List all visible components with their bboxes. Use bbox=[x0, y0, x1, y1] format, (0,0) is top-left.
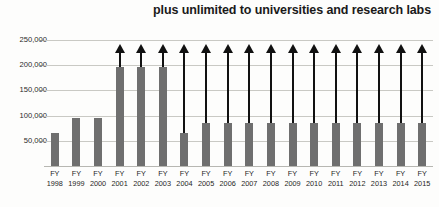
bar bbox=[267, 123, 275, 166]
arrow-shaft bbox=[183, 52, 185, 134]
bar bbox=[397, 123, 405, 166]
bar-group bbox=[395, 40, 407, 166]
arrow-shaft bbox=[205, 52, 207, 124]
arrow-head bbox=[244, 44, 254, 53]
y-axis-tick-mark bbox=[40, 116, 44, 117]
bar bbox=[375, 123, 383, 166]
y-axis-tick-mark bbox=[40, 65, 44, 66]
bar bbox=[116, 67, 124, 166]
arrow-shaft bbox=[119, 52, 121, 67]
arrow-head bbox=[374, 44, 384, 53]
arrow-shaft bbox=[400, 52, 402, 124]
bar-group bbox=[49, 40, 61, 166]
bar bbox=[159, 67, 167, 166]
bar-group bbox=[222, 40, 234, 166]
arrow-head bbox=[201, 44, 211, 53]
plot-area bbox=[44, 40, 433, 166]
arrow-shaft bbox=[378, 52, 380, 124]
bar-group bbox=[92, 40, 104, 166]
y-axis-tick-mark bbox=[40, 40, 44, 41]
bar bbox=[202, 123, 210, 166]
unlimited-arrow-icon bbox=[226, 44, 230, 124]
bar-group bbox=[135, 40, 147, 166]
arrow-shaft bbox=[421, 52, 423, 124]
bar-group bbox=[373, 40, 385, 166]
bar bbox=[418, 123, 426, 166]
bar bbox=[224, 123, 232, 166]
unlimited-arrow-icon bbox=[291, 44, 295, 124]
arrow-shaft bbox=[140, 52, 142, 67]
arrow-shaft bbox=[356, 52, 358, 124]
bar-group bbox=[70, 40, 82, 166]
bar-group bbox=[308, 40, 320, 166]
bar bbox=[332, 123, 340, 166]
arrow-head bbox=[266, 44, 276, 53]
bar bbox=[180, 133, 188, 166]
unlimited-arrow-icon bbox=[118, 44, 122, 67]
unlimited-arrow-icon bbox=[247, 44, 251, 124]
x-axis: FY1998FY1999FY2000FY2001FY2002FY2003FY20… bbox=[44, 169, 433, 199]
bar-group bbox=[157, 40, 169, 166]
unlimited-arrow-icon bbox=[377, 44, 381, 124]
bar-group bbox=[416, 40, 428, 166]
bar bbox=[94, 118, 102, 166]
arrow-shaft bbox=[162, 52, 164, 67]
unlimited-arrow-icon bbox=[355, 44, 359, 124]
y-axis-tick-mark bbox=[40, 141, 44, 142]
unlimited-arrow-icon bbox=[161, 44, 165, 67]
arrow-head bbox=[352, 44, 362, 53]
unlimited-arrow-icon bbox=[312, 44, 316, 124]
unlimited-arrow-icon bbox=[182, 44, 186, 134]
arrow-shaft bbox=[248, 52, 250, 124]
arrow-shaft bbox=[335, 52, 337, 124]
arrow-shaft bbox=[292, 52, 294, 124]
arrow-shaft bbox=[270, 52, 272, 124]
arrow-head bbox=[396, 44, 406, 53]
y-axis-tick-mark bbox=[40, 90, 44, 91]
x-axis-tick-label: FY2015 bbox=[409, 169, 435, 188]
arrow-head bbox=[115, 44, 125, 53]
bar-group bbox=[330, 40, 342, 166]
chart-figure: plus unlimited to universities and resea… bbox=[0, 0, 439, 207]
x-axis-tick-year: 2015 bbox=[409, 179, 435, 189]
arrow-head bbox=[223, 44, 233, 53]
unlimited-arrow-icon bbox=[420, 44, 424, 124]
bar bbox=[51, 133, 59, 166]
bar bbox=[245, 123, 253, 166]
arrow-head bbox=[158, 44, 168, 53]
bar bbox=[289, 123, 297, 166]
bar-group bbox=[287, 40, 299, 166]
unlimited-arrow-icon bbox=[204, 44, 208, 124]
arrow-head bbox=[417, 44, 427, 53]
arrow-head bbox=[288, 44, 298, 53]
bar bbox=[137, 67, 145, 166]
arrow-shaft bbox=[313, 52, 315, 124]
bar-group bbox=[265, 40, 277, 166]
unlimited-arrow-icon bbox=[139, 44, 143, 67]
bar bbox=[72, 118, 80, 166]
axis-baseline bbox=[44, 166, 433, 167]
unlimited-arrow-icon bbox=[334, 44, 338, 124]
x-axis-tick-prefix: FY bbox=[409, 169, 435, 179]
bar bbox=[310, 123, 318, 166]
arrow-head bbox=[331, 44, 341, 53]
chart-title: plus unlimited to universities and resea… bbox=[0, 3, 431, 18]
unlimited-arrow-icon bbox=[269, 44, 273, 124]
arrow-shaft bbox=[227, 52, 229, 124]
bar-group bbox=[243, 40, 255, 166]
arrow-head bbox=[309, 44, 319, 53]
bar-group bbox=[200, 40, 212, 166]
bar-group bbox=[114, 40, 126, 166]
bar-group bbox=[178, 40, 190, 166]
bar bbox=[353, 123, 361, 166]
bar-group bbox=[351, 40, 363, 166]
unlimited-arrow-icon bbox=[399, 44, 403, 124]
arrow-head bbox=[136, 44, 146, 53]
arrow-head bbox=[179, 44, 189, 53]
